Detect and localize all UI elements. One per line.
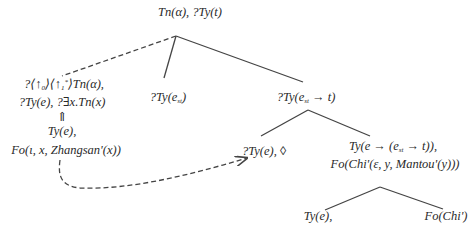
node-linked-content-line2: Fo(ι, x, Zhangsan'(x))	[11, 143, 121, 158]
edge-pred-obj	[261, 110, 308, 136]
node-leaf-ty: Ty(e),	[304, 209, 333, 224]
tree-edges	[0, 0, 475, 232]
edge-root-linked	[62, 36, 176, 76]
node-pred: ?Ty(est → t)	[277, 90, 336, 109]
edge-root-est	[164, 36, 176, 78]
node-linked-line1: ?⟨↑0⟩⟨↑1*⟩Tn(α),	[24, 75, 104, 96]
edge-linked-obj-arrow	[59, 158, 247, 188]
node-linked-content-line1: Ty(e),	[48, 124, 77, 139]
edge-root-pred	[176, 36, 303, 82]
node-linked-line2: ?Ty(e), ?∃x.Tn(x)	[19, 95, 106, 110]
node-obj: ?Ty(e), ◊	[242, 144, 286, 159]
node-functor-line1: Ty(e → (est → t)),	[349, 139, 437, 158]
edge-functor-leaffo	[380, 187, 443, 209]
node-est: ?Ty(est)	[150, 90, 186, 109]
up-arrow-icon: ⇑	[57, 110, 67, 125]
edge-functor-leafty	[325, 187, 380, 210]
node-root: Tn(α), ?Ty(t)	[158, 5, 222, 20]
node-functor-line2: Fo(Chi'(ε, y, Mantou'(y)))	[331, 157, 460, 172]
edge-pred-functor	[308, 110, 370, 136]
node-leaf-fo: Fo(Chi')	[425, 209, 468, 224]
